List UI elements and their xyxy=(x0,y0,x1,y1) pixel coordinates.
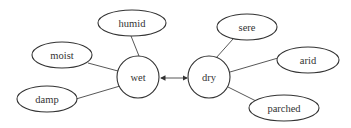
edge-damp-wet xyxy=(76,86,120,99)
edges xyxy=(76,36,278,101)
humid-label: humid xyxy=(119,18,147,29)
edge-parched-dry xyxy=(228,87,256,101)
edge-arid-dry xyxy=(230,58,278,72)
wet-label: wet xyxy=(130,72,145,83)
dry-label: dry xyxy=(202,72,217,83)
leaf-node-damp: damp xyxy=(17,86,77,112)
semantic-network-diagram: wet dry humid moist damp sere arid xyxy=(0,0,351,128)
hub-node-dry: dry xyxy=(188,56,230,98)
leaf-node-arid: arid xyxy=(277,47,339,73)
edge-sere-dry xyxy=(216,39,233,58)
damp-label: damp xyxy=(35,94,58,105)
leaf-node-parched: parched xyxy=(249,95,319,121)
moist-label: moist xyxy=(50,50,73,61)
arid-label: arid xyxy=(300,55,317,66)
leaf-node-sere: sere xyxy=(217,14,277,40)
leaf-node-moist: moist xyxy=(32,42,92,68)
leaf-node-humid: humid xyxy=(98,10,166,36)
edge-humid-wet xyxy=(131,36,139,56)
hub-node-wet: wet xyxy=(117,56,159,98)
sere-label: sere xyxy=(239,22,256,33)
edge-moist-wet xyxy=(88,63,118,71)
parched-label: parched xyxy=(267,103,301,114)
